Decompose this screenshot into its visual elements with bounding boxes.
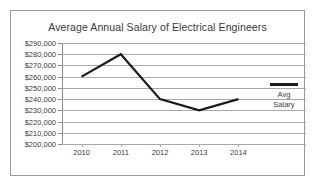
y-axis-tick-label: $280,000 [25, 50, 56, 59]
y-axis-tick-label: $240,000 [25, 95, 56, 104]
y-axis-tick-label: $210,000 [25, 128, 56, 137]
x-axis-tick-label: 2014 [230, 148, 247, 157]
x-axis-tick-label: 2011 [113, 148, 129, 157]
chart-container: Average Annual Salary of Electrical Engi… [10, 10, 305, 176]
legend-swatch-avg-salary [270, 83, 298, 86]
y-axis-tick-label: $230,000 [25, 106, 56, 115]
y-axis-tick [58, 144, 62, 145]
chart-legend: Avg Salary [263, 83, 305, 110]
legend-label-line2: Salary [263, 100, 305, 110]
y-axis-tick-label: $260,000 [25, 72, 56, 81]
gridline [62, 144, 306, 145]
series-line-avg-salary [62, 43, 258, 144]
x-axis-tick [199, 144, 200, 147]
y-axis-tick-label: $270,000 [25, 61, 56, 70]
x-axis-tick-label: 2010 [73, 148, 90, 157]
plot-area: $290,000$280,000$270,000$260,000$250,000… [62, 43, 258, 144]
x-axis-tick-label: 2012 [152, 148, 169, 157]
x-axis-tick [121, 144, 122, 147]
y-axis-tick-label: $250,000 [25, 83, 56, 92]
x-axis-tick [82, 144, 83, 147]
x-axis-tick [160, 144, 161, 147]
legend-label-line1: Avg [263, 90, 305, 100]
y-axis-tick-label: $220,000 [25, 117, 56, 126]
x-axis-tick-label: 2013 [191, 148, 208, 157]
y-axis-tick-label: $200,000 [25, 140, 56, 149]
y-axis-tick-label: $290,000 [25, 39, 56, 48]
x-axis-tick [238, 144, 239, 147]
chart-title: Average Annual Salary of Electrical Engi… [11, 21, 304, 33]
